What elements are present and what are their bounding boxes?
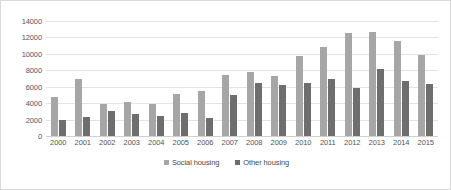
bar-social-housing-2005: [173, 94, 180, 136]
bar-group: [193, 21, 218, 136]
bar-social-housing-2008: [247, 72, 254, 136]
bar-other-housing-2003: [132, 114, 139, 136]
bar-other-housing-2014: [402, 81, 409, 136]
x-tick-label: 2006: [193, 138, 218, 147]
legend-item-social-housing[interactable]: Social housing: [164, 158, 219, 167]
bar-social-housing-2010: [296, 56, 303, 136]
bar-chart-figure: 02000400060008000100001200014000 2000200…: [0, 0, 451, 190]
bar-other-housing-2000: [59, 120, 66, 136]
bar-other-housing-2007: [230, 95, 237, 136]
x-tick-label: 2000: [46, 138, 71, 147]
x-tick-label: 2013: [365, 138, 390, 147]
legend-label: Social housing: [172, 158, 219, 167]
x-axis: 2000200120022003200420052006200720082009…: [46, 138, 438, 147]
y-tick-label: 2000: [26, 115, 42, 124]
y-tick-label: 14000: [22, 17, 42, 26]
bar-group: [316, 21, 341, 136]
bar-social-housing-2014: [394, 41, 401, 136]
bar-social-housing-2002: [100, 104, 107, 136]
bar-group: [291, 21, 316, 136]
bar-social-housing-2003: [124, 102, 131, 137]
bar-other-housing-2005: [181, 113, 188, 136]
legend-swatch-icon: [235, 160, 240, 165]
x-tick-label: 2002: [95, 138, 120, 147]
bar-group: [267, 21, 292, 136]
bar-group: [340, 21, 365, 136]
x-tick-label: 2004: [144, 138, 169, 147]
x-tick-label: 2008: [242, 138, 267, 147]
axis-baseline: [46, 136, 438, 137]
chart-legend: Social housingOther housing: [1, 158, 451, 167]
bar-group: [218, 21, 243, 136]
bar-group: [389, 21, 414, 136]
bar-other-housing-2001: [83, 117, 90, 136]
bar-social-housing-2006: [198, 91, 205, 136]
bar-social-housing-2007: [222, 75, 229, 136]
bar-group: [71, 21, 96, 136]
x-tick-label: 2003: [120, 138, 145, 147]
bar-other-housing-2013: [377, 69, 384, 136]
bar-group: [242, 21, 267, 136]
bar-group: [120, 21, 145, 136]
x-tick-label: 2005: [169, 138, 194, 147]
bars-layer: [46, 21, 438, 136]
bar-other-housing-2012: [353, 88, 360, 136]
bar-other-housing-2010: [304, 83, 311, 136]
bar-other-housing-2008: [255, 83, 262, 136]
bar-social-housing-2013: [369, 32, 376, 136]
y-tick-label: 12000: [22, 33, 42, 42]
x-tick-label: 2015: [414, 138, 439, 147]
bar-other-housing-2004: [157, 116, 164, 136]
bar-social-housing-2001: [75, 79, 82, 137]
bar-social-housing-2004: [149, 104, 156, 136]
y-tick-label: 4000: [26, 99, 42, 108]
bar-social-housing-2011: [320, 47, 327, 136]
bar-group: [144, 21, 169, 136]
bar-group: [365, 21, 390, 136]
legend-label: Other housing: [243, 158, 289, 167]
bar-other-housing-2015: [426, 84, 433, 136]
x-tick-label: 2007: [218, 138, 243, 147]
bar-other-housing-2006: [206, 118, 213, 136]
x-tick-label: 2011: [316, 138, 341, 147]
bar-group: [95, 21, 120, 136]
x-tick-label: 2001: [71, 138, 96, 147]
y-tick-label: 8000: [26, 66, 42, 75]
x-tick-label: 2009: [267, 138, 292, 147]
legend-item-other-housing[interactable]: Other housing: [235, 158, 289, 167]
bar-group: [46, 21, 71, 136]
bar-group: [169, 21, 194, 136]
x-tick-label: 2012: [340, 138, 365, 147]
y-tick-label: 0: [38, 132, 42, 141]
y-tick-label: 6000: [26, 82, 42, 91]
bar-other-housing-2011: [328, 79, 335, 136]
bar-social-housing-2000: [51, 97, 58, 136]
bar-other-housing-2009: [279, 85, 286, 136]
bar-group: [414, 21, 439, 136]
bar-social-housing-2015: [418, 55, 425, 136]
y-tick-label: 10000: [22, 49, 42, 58]
x-tick-label: 2014: [389, 138, 414, 147]
bar-social-housing-2012: [345, 33, 352, 136]
x-tick-label: 2010: [291, 138, 316, 147]
y-axis: 02000400060008000100001200014000: [1, 21, 42, 136]
legend-swatch-icon: [164, 160, 169, 165]
bar-social-housing-2009: [271, 76, 278, 136]
bar-other-housing-2002: [108, 111, 115, 136]
